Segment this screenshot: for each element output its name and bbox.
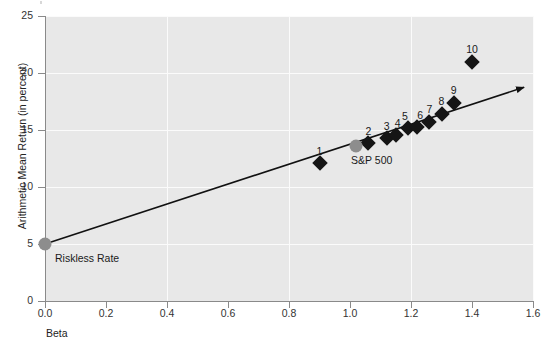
data-point-label: 9 — [451, 85, 457, 96]
data-point-label: 6 — [417, 110, 423, 121]
security-market-line — [45, 87, 524, 244]
annotation-label: Riskless Rate — [55, 253, 119, 264]
data-point-marker — [39, 238, 52, 251]
data-point-label: 10 — [466, 44, 478, 55]
data-point-label: 7 — [426, 104, 432, 115]
data-point-label: 8 — [439, 96, 445, 107]
annotation-label: S&P 500 — [351, 155, 392, 166]
data-point-label: 5 — [402, 111, 408, 122]
data-point-label: 1 — [317, 146, 323, 157]
data-point-label: 3 — [384, 121, 390, 132]
data-point-marker — [350, 139, 363, 152]
data-point-label: 2 — [365, 126, 371, 137]
